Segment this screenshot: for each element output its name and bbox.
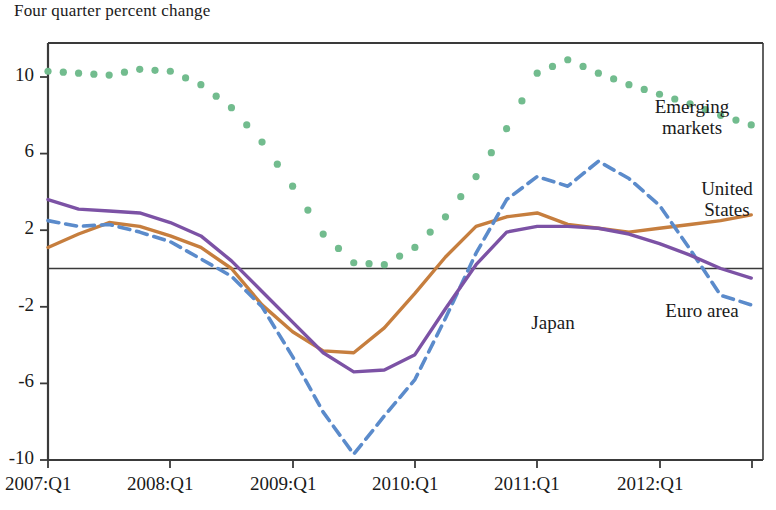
x-axis-tick-label: 2009:Q1 bbox=[250, 473, 317, 495]
euro-area-label: Euro area bbox=[665, 300, 738, 321]
data-point bbox=[748, 121, 755, 128]
data-point bbox=[457, 193, 464, 200]
data-point bbox=[732, 116, 739, 123]
data-point bbox=[289, 183, 296, 190]
data-point bbox=[60, 69, 67, 76]
x-axis-tick-label: 2008:Q1 bbox=[127, 473, 194, 495]
data-point bbox=[610, 75, 617, 82]
data-point bbox=[258, 139, 265, 146]
data-point bbox=[75, 70, 82, 77]
chart-page: Four quarter percent change 1062-2-6-10 … bbox=[0, 0, 776, 510]
emerging-markets-label-line: Emerging bbox=[655, 96, 730, 117]
data-point bbox=[44, 68, 51, 75]
united-states-label-line: United bbox=[701, 178, 753, 199]
data-point bbox=[503, 125, 510, 132]
data-point bbox=[534, 70, 541, 77]
y-axis-tick-label: -2 bbox=[18, 294, 34, 316]
data-point bbox=[121, 69, 128, 76]
data-point bbox=[641, 86, 648, 93]
data-point bbox=[274, 161, 281, 168]
united-states-label: UnitedStates bbox=[701, 178, 753, 221]
series-layer bbox=[44, 56, 754, 454]
data-point bbox=[304, 206, 311, 213]
data-point bbox=[350, 259, 357, 266]
data-point bbox=[228, 104, 235, 111]
japan-label-line: Japan bbox=[531, 312, 574, 333]
euro-area-label-line: Euro area bbox=[665, 300, 738, 321]
series-line-3 bbox=[48, 200, 751, 372]
japan-label: Japan bbox=[531, 312, 574, 333]
line-chart-plot bbox=[0, 0, 776, 510]
y-axis-tick-label: -10 bbox=[9, 447, 34, 469]
emerging-markets-label: Emergingmarkets bbox=[655, 96, 730, 139]
series-line-1 bbox=[48, 213, 751, 353]
data-point bbox=[197, 81, 204, 88]
data-point bbox=[182, 74, 189, 81]
data-point bbox=[335, 245, 342, 252]
data-point bbox=[90, 71, 97, 78]
y-axis-tick-label: 2 bbox=[25, 217, 35, 239]
y-axis-tick-label: 6 bbox=[25, 140, 35, 162]
data-point bbox=[488, 149, 495, 156]
y-axis-tick-label: -6 bbox=[18, 370, 34, 392]
x-axis-tick-label: 2011:Q1 bbox=[494, 473, 560, 495]
data-point bbox=[411, 244, 418, 251]
data-point bbox=[595, 70, 602, 77]
x-axis-tick-label: 2010:Q1 bbox=[372, 473, 439, 495]
data-point bbox=[167, 68, 174, 75]
data-point bbox=[381, 261, 388, 268]
data-point bbox=[427, 229, 434, 236]
data-point bbox=[213, 93, 220, 100]
data-point bbox=[579, 63, 586, 70]
data-point bbox=[151, 67, 158, 74]
data-point bbox=[365, 260, 372, 267]
data-point bbox=[106, 71, 113, 78]
emerging-markets-label-line: markets bbox=[655, 117, 730, 138]
data-point bbox=[442, 213, 449, 220]
series-line-2 bbox=[48, 161, 751, 454]
data-point bbox=[396, 252, 403, 259]
x-axis-tick-label: 2012:Q1 bbox=[617, 473, 684, 495]
data-point bbox=[518, 97, 525, 104]
data-point bbox=[136, 66, 143, 73]
data-point bbox=[549, 63, 556, 70]
data-point bbox=[243, 121, 250, 128]
data-point bbox=[625, 81, 632, 88]
united-states-label-line: States bbox=[701, 199, 753, 220]
y-axis-tick-label: 10 bbox=[15, 64, 34, 86]
x-axis-tick-label: 2007:Q1 bbox=[5, 473, 72, 495]
data-point bbox=[472, 173, 479, 180]
data-point bbox=[320, 230, 327, 237]
data-point bbox=[564, 56, 571, 63]
